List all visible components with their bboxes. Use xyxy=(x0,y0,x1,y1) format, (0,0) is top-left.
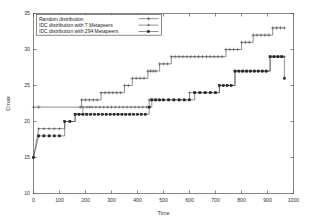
y-tick-label: 20 xyxy=(24,118,30,124)
data-point-marker xyxy=(86,113,88,115)
legend-label-0: Random distribution xyxy=(39,16,84,22)
data-point-marker xyxy=(257,70,259,72)
data-point-marker xyxy=(159,99,161,101)
data-point-marker xyxy=(90,113,92,115)
data-point-marker xyxy=(148,106,150,108)
x-tick-label: 700 xyxy=(211,197,220,203)
x-tick-label: 0 xyxy=(32,197,35,203)
data-point-marker xyxy=(133,113,135,115)
series-0 xyxy=(32,26,286,109)
data-point-marker xyxy=(234,70,236,72)
data-point-marker xyxy=(136,113,138,115)
data-point-marker xyxy=(199,92,201,94)
data-point-marker xyxy=(269,56,271,58)
y-tick-label: 25 xyxy=(24,82,30,88)
data-point-marker xyxy=(147,30,149,32)
data-point-marker xyxy=(230,84,232,86)
x-tick-label: 400 xyxy=(133,197,142,203)
data-point-marker xyxy=(32,156,34,158)
data-point-marker xyxy=(53,135,55,137)
data-point-marker xyxy=(109,113,111,115)
x-tick-label: 800 xyxy=(237,197,246,203)
y-axis-title: Cmax xyxy=(5,96,11,111)
x-axis-title: Time xyxy=(157,210,169,216)
y-tick-label: 35 xyxy=(24,10,30,16)
data-point-marker xyxy=(226,84,228,86)
axis-ticks-layer xyxy=(34,14,294,194)
data-point-marker xyxy=(48,135,50,137)
y-tick-label: 15 xyxy=(24,154,30,160)
data-point-marker xyxy=(178,99,180,101)
data-point-marker xyxy=(273,56,275,58)
series-path xyxy=(34,28,285,107)
data-point-marker xyxy=(162,99,164,101)
data-point-marker xyxy=(188,99,190,101)
plot-frame xyxy=(34,14,294,194)
data-point-marker xyxy=(265,70,267,72)
data-point-marker xyxy=(97,113,99,115)
data-point-marker xyxy=(74,113,76,115)
x-tick-label: 300 xyxy=(107,197,116,203)
data-point-marker xyxy=(261,70,263,72)
series-layer xyxy=(32,26,286,159)
x-tick-label: 500 xyxy=(159,197,168,203)
x-tick-label: 600 xyxy=(185,197,194,203)
data-point-marker xyxy=(125,113,127,115)
data-point-marker xyxy=(121,113,123,115)
data-point-marker xyxy=(82,113,84,115)
axes-layer xyxy=(34,14,294,194)
x-tick-label: 100 xyxy=(55,197,64,203)
data-point-marker xyxy=(94,113,96,115)
data-point-marker xyxy=(204,92,206,94)
y-tick-label: 10 xyxy=(24,190,30,196)
data-point-marker xyxy=(253,70,255,72)
data-point-marker xyxy=(281,56,283,58)
data-point-marker xyxy=(151,99,153,101)
data-point-marker xyxy=(277,56,279,58)
data-point-marker xyxy=(173,99,175,101)
data-point-marker xyxy=(69,120,71,122)
y-tick-label: 30 xyxy=(24,46,30,52)
data-point-marker xyxy=(242,70,244,72)
data-point-marker xyxy=(140,113,142,115)
legend-label-1: IDC distribution with 7 Metapeers xyxy=(39,22,113,28)
chart-container: 0100200300400500600700800900100010152025… xyxy=(0,0,311,223)
data-point-marker xyxy=(101,113,103,115)
data-point-marker xyxy=(144,113,146,115)
data-point-marker xyxy=(43,135,45,137)
data-point-marker xyxy=(58,135,60,137)
x-tick-label: 200 xyxy=(81,197,90,203)
data-point-marker xyxy=(129,113,131,115)
data-point-marker xyxy=(168,99,170,101)
data-point-marker xyxy=(218,84,220,86)
data-point-marker xyxy=(222,84,224,86)
data-point-marker xyxy=(246,70,248,72)
data-point-marker xyxy=(38,135,40,137)
axis-labels-layer: 0100200300400500600700800900100010152025… xyxy=(5,10,300,215)
data-point-marker xyxy=(117,113,119,115)
x-tick-label: 900 xyxy=(263,197,272,203)
data-point-marker xyxy=(209,92,211,94)
line-chart: 0100200300400500600700800900100010152025… xyxy=(0,0,311,223)
legend-label-2: IDC distribution with 294 Metapeers xyxy=(39,28,119,34)
data-point-marker xyxy=(214,92,216,94)
data-point-marker xyxy=(250,70,252,72)
data-point-marker xyxy=(113,113,115,115)
data-point-marker xyxy=(283,77,285,79)
data-point-marker xyxy=(183,99,185,101)
data-point-marker xyxy=(64,120,66,122)
data-point-marker xyxy=(105,113,107,115)
data-point-marker xyxy=(238,70,240,72)
data-point-marker xyxy=(194,92,196,94)
chart-legend: Random distributionIDC distribution with… xyxy=(37,15,162,36)
x-tick-label: 1000 xyxy=(288,197,300,203)
data-point-marker xyxy=(155,99,157,101)
data-point-marker xyxy=(78,113,80,115)
